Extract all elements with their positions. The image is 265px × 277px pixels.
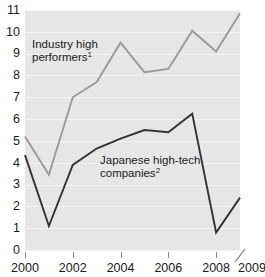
- x-axis-tick-label: 2000: [11, 261, 39, 275]
- x-axis-tick-label: 2008: [202, 261, 230, 275]
- y-axis-tick-label: 5: [13, 134, 20, 148]
- x-axis-tick-labels: 200020022004200620082009: [11, 261, 265, 275]
- line-chart: 01234567891011 200020022004200620082009 …: [0, 0, 265, 277]
- x-axis-tick-label: 2002: [59, 261, 87, 275]
- series-label-line: companies: [100, 167, 156, 179]
- series-label-line: performers: [32, 51, 88, 63]
- y-axis-tick-label: 9: [13, 46, 20, 60]
- series-label-line: Industry high: [32, 38, 98, 50]
- y-axis-tick-label: 7: [13, 90, 20, 104]
- x-axis-tick-label: 2006: [154, 261, 182, 275]
- y-axis-tick-label: 3: [13, 177, 20, 191]
- x-axis-tick-label: 2004: [107, 261, 135, 275]
- y-axis-tick-label: 10: [6, 25, 20, 39]
- y-axis-tick-label: 1: [13, 221, 20, 235]
- chart-canvas: 01234567891011 200020022004200620082009 …: [0, 0, 265, 277]
- x-axis-tick-label: 2009: [238, 261, 265, 275]
- x-axis-ticks: [26, 252, 217, 258]
- series-label-line: Japanese high-tech: [100, 154, 200, 166]
- y-axis-tick-label: 2: [13, 199, 20, 213]
- y-axis-tick-labels: 01234567891011: [6, 3, 20, 257]
- footnote-marker: 1: [88, 50, 93, 59]
- y-axis-tick-label: 11: [7, 3, 20, 17]
- y-axis-tick-label: 8: [13, 68, 20, 82]
- y-axis-tick-label: 6: [13, 112, 20, 126]
- footnote-marker: 2: [156, 166, 161, 175]
- y-axis-tick-label: 4: [13, 156, 20, 170]
- y-axis-tick-label: 0: [13, 243, 20, 257]
